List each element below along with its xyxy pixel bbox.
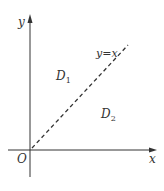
coordinate-diagram: O x y y=x D1 D2: [0, 0, 164, 191]
line-y-equals-x: [32, 45, 128, 148]
line-label: y=x: [95, 47, 118, 60]
y-axis-arrow-icon: [28, 14, 33, 23]
x-axis-label: x: [149, 152, 156, 166]
y-axis-label: y: [17, 15, 25, 29]
region-d1-label: D1: [55, 69, 71, 85]
region-d2-label: D2: [100, 107, 116, 123]
origin-label: O: [17, 152, 27, 166]
